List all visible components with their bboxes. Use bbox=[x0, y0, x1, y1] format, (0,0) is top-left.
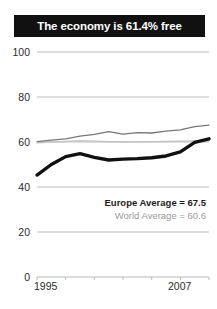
xtick-label-end: 2007 bbox=[168, 281, 191, 292]
ytick-label-40: 40 bbox=[0, 182, 30, 193]
ytick-label-20: 20 bbox=[0, 227, 30, 238]
chart-svg bbox=[0, 0, 217, 309]
ytick-label-100: 100 bbox=[0, 47, 30, 58]
series-line-country bbox=[37, 139, 209, 175]
world-average-annotation: World Average = 60.6 bbox=[78, 209, 206, 222]
xtick-label-start: 1995 bbox=[34, 281, 57, 292]
ytick-label-0: 0 bbox=[0, 272, 30, 283]
series-line-europe-average bbox=[37, 125, 209, 141]
plot-area: 100 80 60 40 20 0 1995 2007 Europe Avera… bbox=[0, 0, 217, 309]
series-lines bbox=[37, 125, 209, 175]
chart-annotations: Europe Average = 67.5 World Average = 60… bbox=[78, 196, 206, 222]
ytick-label-60: 60 bbox=[0, 137, 30, 148]
gridlines bbox=[37, 52, 209, 277]
chart-page: The economy is 61.4% free 100 80 60 40 2… bbox=[0, 0, 217, 309]
europe-average-annotation: Europe Average = 67.5 bbox=[78, 196, 206, 209]
ytick-label-80: 80 bbox=[0, 92, 30, 103]
